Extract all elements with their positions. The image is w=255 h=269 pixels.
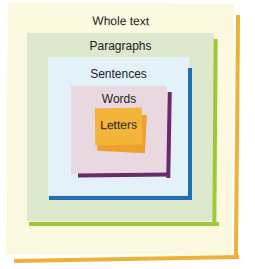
letters-note-front: Letters [95,108,143,146]
whole-text-edge-right [234,15,240,259]
whole-text-edge-bottom [14,255,239,263]
sentences-edge-bottom [49,196,192,200]
level-label-letters: Letters [95,118,142,133]
level-label-sentences: Sentences [48,67,189,81]
paragraphs-edge-bottom [29,222,219,226]
sentences-edge-right [188,68,192,200]
level-label-words: Words [71,92,167,106]
level-label-paragraphs: Paragraphs [27,39,214,53]
level-label-whole-text: Whole text [8,13,234,29]
